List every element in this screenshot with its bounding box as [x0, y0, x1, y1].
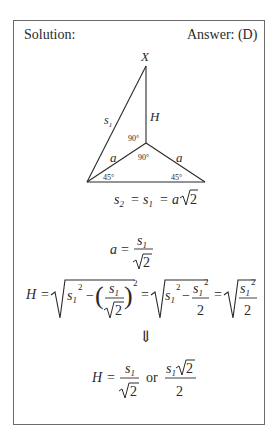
slant-edge — [87, 66, 146, 182]
svg-text:−: − — [182, 288, 190, 303]
svg-text:2: 2 — [190, 192, 197, 207]
svg-text:=: = — [131, 192, 139, 207]
base-leg-left — [87, 143, 146, 182]
angle-top: 90° — [128, 134, 139, 143]
svg-text:=: = — [41, 287, 49, 302]
svg-text:=: = — [121, 242, 129, 257]
svg-text:s1: s1 — [137, 233, 147, 250]
svg-text:2: 2 — [133, 278, 138, 288]
height-label: H — [149, 109, 160, 124]
svg-text:s1: s1 — [67, 288, 77, 305]
svg-text:H: H — [25, 287, 37, 302]
svg-text:2: 2 — [130, 384, 137, 399]
svg-text:=: = — [107, 370, 115, 385]
equation-4: H = s1 2 or s1 2 2 — [91, 360, 196, 399]
svg-text:s1: s1 — [166, 361, 176, 378]
angle-right: 45° — [171, 173, 182, 182]
svg-text:=: = — [214, 287, 222, 302]
svg-text:2: 2 — [251, 277, 256, 287]
svg-text:2: 2 — [186, 361, 193, 376]
angle-center: 90° — [138, 153, 149, 162]
angle-left: 45° — [103, 173, 114, 182]
svg-text:s1: s1 — [125, 361, 135, 378]
svg-text:2: 2 — [78, 282, 83, 292]
svg-text:): ) — [124, 281, 133, 310]
svg-text:2: 2 — [197, 303, 204, 318]
svg-text:H: H — [91, 370, 103, 385]
svg-text:(: ( — [95, 281, 104, 310]
equation-3: H = s1 2 − ( s1 2 ) 2 = s1 2 − s1 2 2 = … — [25, 277, 257, 318]
svg-text:2: 2 — [204, 277, 209, 287]
solution-diagram: X s1 H 90° a 90° a 45° 45° s2 = s1 = a 2… — [0, 0, 277, 428]
svg-text:s2: s2 — [114, 192, 124, 209]
svg-text:s1: s1 — [193, 281, 203, 298]
svg-text:2: 2 — [176, 282, 181, 292]
svg-text:−: − — [86, 288, 94, 303]
svg-text:2: 2 — [143, 255, 150, 270]
svg-text:=: = — [160, 192, 168, 207]
svg-text:s1: s1 — [240, 281, 250, 298]
svg-text:2: 2 — [115, 303, 122, 318]
implies-arrow: ⇓ — [139, 328, 152, 345]
svg-text:s1: s1 — [143, 192, 153, 209]
equation-2: a = s1 2 — [110, 233, 153, 270]
svg-text:a: a — [110, 242, 117, 257]
slant-edge-label: s1 — [104, 113, 112, 129]
svg-text:or: or — [146, 370, 158, 385]
svg-text:2: 2 — [244, 303, 251, 318]
equation-1: s2 = s1 = a 2 — [114, 190, 198, 209]
svg-text:2: 2 — [176, 384, 183, 399]
svg-text:a: a — [172, 192, 179, 207]
svg-text:s1: s1 — [165, 288, 175, 305]
vertex-label: X — [140, 49, 150, 64]
base-leg-left-label: a — [110, 150, 117, 165]
svg-text:=: = — [141, 287, 149, 302]
base-leg-right-label: a — [176, 150, 183, 165]
svg-text:s1: s1 — [109, 281, 119, 298]
